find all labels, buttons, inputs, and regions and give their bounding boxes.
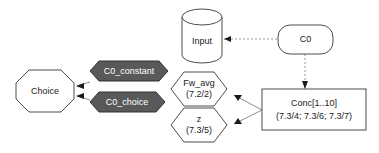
node-choice[interactable]: Choice: [16, 70, 74, 112]
node-c0[interactable]: C0: [278, 25, 333, 54]
node-z-label-line1: z: [197, 114, 202, 124]
node-conc-label-line1: Conc[1..10]: [291, 98, 337, 108]
node-choice-label: Choice: [31, 86, 59, 96]
node-c0-constant[interactable]: C0_constant: [90, 61, 168, 81]
edge-c0-choice-to-choice: [76, 93, 90, 100]
node-fw-avg-label-line1: Fw_avg: [183, 78, 215, 88]
node-c0-choice[interactable]: C0_choice: [90, 92, 165, 112]
node-z-label-line2: (7.3/5): [186, 125, 212, 135]
diagram-svg: Choice C0_constant C0_choice Input C0 Fw…: [0, 0, 379, 153]
edge-c0-to-conc: [302, 54, 308, 89]
node-c0-constant-label: C0_constant: [104, 66, 155, 76]
node-conc[interactable]: Conc[1..10] (7.3/4; 7.3/6; 7.3/7): [262, 89, 366, 130]
node-fw-avg-label-line2: (7.2/2): [186, 89, 212, 99]
node-c0-label: C0: [300, 34, 312, 44]
edge-conc-to-z: [234, 110, 262, 124]
node-z[interactable]: z (7.3/5): [171, 108, 227, 142]
diagram-canvas: Choice C0_constant C0_choice Input C0 Fw…: [0, 0, 379, 153]
node-fw-avg[interactable]: Fw_avg (7.2/2): [171, 72, 227, 106]
node-c0-choice-label: C0_choice: [106, 97, 149, 107]
edge-conc-to-fw-avg: [234, 95, 262, 110]
edge-c0-to-input: [224, 36, 277, 42]
edge-c0-constant-to-choice: [76, 82, 90, 89]
node-input[interactable]: Input: [182, 9, 222, 63]
node-input-label: Input: [192, 36, 213, 46]
node-conc-label-line2: (7.3/4; 7.3/6; 7.3/7): [276, 111, 352, 121]
